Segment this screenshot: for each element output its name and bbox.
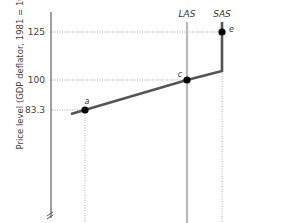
y-tick-100: 100: [28, 75, 45, 85]
point-c-label: c: [178, 70, 183, 79]
sas-label: SAS: [213, 9, 231, 19]
point-a-label: a: [85, 97, 90, 106]
point-c: [183, 76, 190, 83]
sas-curve: [71, 22, 222, 114]
point-a: [81, 106, 88, 113]
axis-break-mark: [47, 212, 53, 219]
price-level-chart: Price level (GDP deflator, 1981 = 100) 1…: [0, 0, 286, 223]
point-e: [218, 28, 225, 35]
y-tick-125: 125: [28, 27, 45, 37]
point-e-label: e: [229, 25, 234, 34]
las-label: LAS: [179, 9, 196, 19]
y-tick-83-3: 83.3: [25, 105, 45, 115]
y-axis-label: Price level (GDP deflator, 1981 = 100): [15, 0, 25, 149]
